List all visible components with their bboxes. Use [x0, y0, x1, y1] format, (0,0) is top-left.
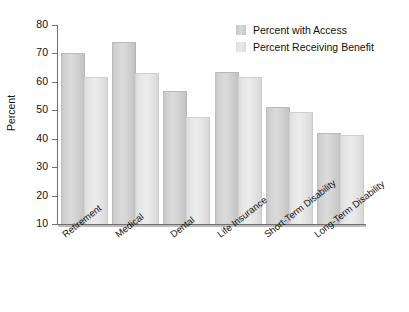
- y-axis-tick: [52, 167, 57, 168]
- y-axis-tick-label: 80: [18, 19, 48, 30]
- y-axis-tick: [52, 25, 57, 26]
- y-axis-tick-label: 50: [18, 104, 48, 115]
- bar-access: [112, 42, 136, 224]
- y-axis-tick-label: 40: [18, 133, 48, 144]
- y-axis-tick-label: 10: [18, 218, 48, 229]
- y-axis-tick: [52, 53, 57, 54]
- legend-item: Percent Receiving Benefit: [236, 38, 374, 55]
- y-axis-tick: [52, 110, 57, 111]
- bar-chart-figure: Percent 8070605040302010 RetirementMedic…: [0, 0, 409, 312]
- y-axis-tick: [52, 196, 57, 197]
- y-axis-tick-label: 30: [18, 161, 48, 172]
- y-axis-tick-label: 70: [18, 47, 48, 58]
- bar-access: [215, 72, 239, 224]
- bar-benefit: [186, 117, 210, 224]
- bar-benefit: [135, 73, 159, 224]
- bar-access: [163, 91, 187, 224]
- legend-item: Percent with Access: [236, 21, 374, 38]
- y-axis-tick: [52, 139, 57, 140]
- bar-access: [61, 53, 85, 224]
- bar-access: [266, 107, 290, 224]
- y-axis-title: Percent: [5, 83, 17, 143]
- y-axis-tick: [52, 224, 57, 225]
- y-axis-tick: [52, 82, 57, 83]
- legend-item-label: Percent Receiving Benefit: [253, 41, 374, 53]
- y-axis-tick-label: 60: [18, 76, 48, 87]
- y-axis-tick-label: 20: [18, 190, 48, 201]
- legend-item-label: Percent with Access: [253, 24, 347, 36]
- legend-swatch-benefit: [236, 42, 246, 52]
- legend-swatch-access: [236, 25, 246, 35]
- chart-legend: Percent with AccessPercent Receiving Ben…: [236, 21, 374, 55]
